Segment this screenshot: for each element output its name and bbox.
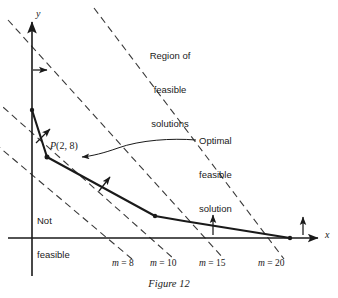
region-feasible-line-1: Region of <box>130 50 210 61</box>
vertex-dot-x-intercept <box>288 236 292 240</box>
objective-label-m15-eq: = <box>206 258 216 268</box>
figure-caption: Figure 12 <box>0 278 338 290</box>
optimal-solution-line-3: solution <box>199 203 269 214</box>
point-label-p: P(2, 8) <box>50 140 78 152</box>
vertex-dot-p <box>45 155 50 160</box>
region-feasible-line-3: solutions <box>130 118 210 129</box>
objective-label-m20-var: m <box>258 258 265 268</box>
objective-label-m20-value: 20 <box>275 258 285 268</box>
objective-label-m8: m = 8 <box>112 258 134 269</box>
vertex-dot-mid <box>153 214 157 218</box>
region-feasible-line-2: feasible <box>130 84 210 95</box>
objective-label-m15: m = 15 <box>199 258 225 269</box>
objective-label-m10: m = 10 <box>150 258 176 269</box>
not-feasible-annotation: Not feasible <box>37 193 97 283</box>
objective-label-m10-eq: = <box>157 258 167 268</box>
objective-label-m20-eq: = <box>265 258 275 268</box>
objective-label-m15-var: m <box>199 258 206 268</box>
y-axis-label: y <box>36 8 40 20</box>
region-feasible-annotation: Region of feasible solutions <box>130 28 210 151</box>
objective-label-m20: m = 20 <box>258 258 284 269</box>
optimal-solution-line-1: Optimal <box>199 135 269 146</box>
objective-label-m8-value: 8 <box>129 258 134 268</box>
point-label-p-coords: (2, 8) <box>56 140 78 151</box>
not-feasible-line-2: feasible <box>37 249 97 260</box>
optimal-solution-line-2: feasible <box>199 169 269 180</box>
objective-label-m15-value: 15 <box>216 258 226 268</box>
objective-label-m8-var: m <box>112 258 119 268</box>
objective-label-m10-var: m <box>150 258 157 268</box>
objective-label-m8-eq: = <box>119 258 129 268</box>
vertex-dot-y-intercept <box>30 108 34 112</box>
optimal-solution-annotation: Optimal feasible solution <box>199 113 269 236</box>
objective-label-m10-value: 10 <box>167 258 177 268</box>
x-axis-label: x <box>325 229 329 241</box>
not-feasible-line-1: Not <box>37 215 97 226</box>
figure-container: y x Region of feasible solutions Not fea… <box>0 0 338 298</box>
